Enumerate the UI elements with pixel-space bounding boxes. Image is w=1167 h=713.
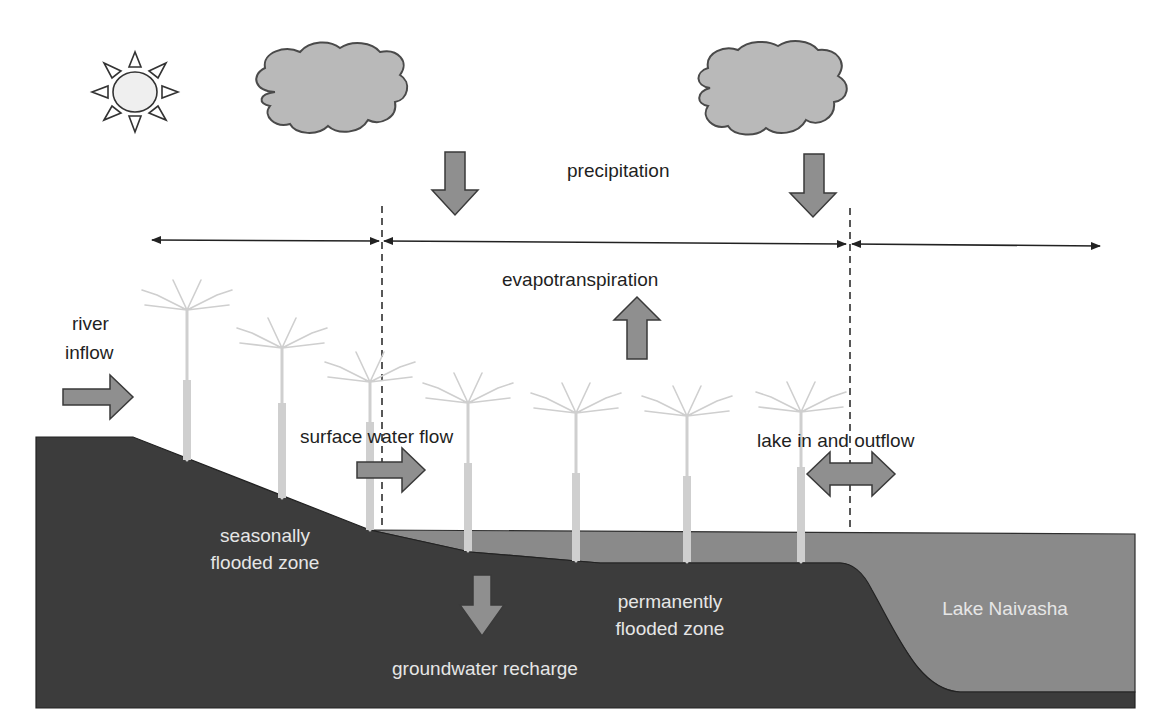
lake-in-out-flow-label: lake in and outflow bbox=[757, 429, 914, 453]
river-inflow-arrow bbox=[63, 375, 133, 419]
sun-icon bbox=[92, 52, 178, 132]
river-inflow-label-line2: inflow bbox=[65, 341, 114, 365]
evapotranspiration-label: evapotranspiration bbox=[502, 268, 658, 292]
papyrus-icon bbox=[142, 280, 232, 460]
seasonal-zone-label-line1: seasonally bbox=[195, 524, 335, 548]
seasonal-zone-label-line2: flooded zone bbox=[195, 551, 335, 575]
lake-in-out-flow-arrow bbox=[807, 452, 895, 496]
permanent-zone-label-line1: permanently bbox=[595, 590, 745, 614]
permanent-zone-label-line2: flooded zone bbox=[595, 617, 745, 641]
cloud-icon bbox=[256, 42, 407, 132]
zone-span-lake bbox=[852, 244, 1100, 246]
evapotranspiration-arrow bbox=[614, 297, 660, 359]
lake-name-label: Lake Naivasha bbox=[930, 597, 1080, 621]
surface-water-flow-label: surface water flow bbox=[300, 425, 453, 449]
groundwater-recharge-label: groundwater recharge bbox=[365, 657, 605, 681]
papyrus-icon bbox=[237, 318, 327, 498]
cloud-icon bbox=[698, 41, 846, 135]
precipitation-arrow-left bbox=[432, 152, 478, 215]
zone-span-seasonal bbox=[152, 240, 379, 241]
river-inflow-label-line1: river bbox=[72, 312, 109, 336]
precipitation-label: precipitation bbox=[567, 159, 669, 183]
precipitation-arrow-right bbox=[790, 154, 836, 217]
zone-span-permanent bbox=[384, 241, 846, 244]
hydrology-diagram: precipitation evapotranspiration river i… bbox=[0, 0, 1167, 713]
papyrus-icon bbox=[423, 373, 513, 551]
